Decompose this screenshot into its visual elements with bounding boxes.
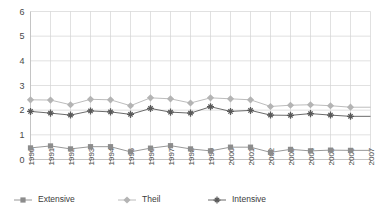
y-axis-tick-labels: 0123456 xyxy=(19,7,24,165)
square-marker xyxy=(20,197,25,202)
square-marker xyxy=(168,143,173,148)
plus-marker xyxy=(347,113,354,120)
square-marker xyxy=(28,145,33,150)
plus-marker xyxy=(267,112,274,119)
plus-marker xyxy=(107,108,114,115)
plus-marker xyxy=(147,105,154,112)
y-tick-label: 5 xyxy=(19,31,24,41)
series-line xyxy=(31,107,371,117)
square-marker xyxy=(308,148,313,153)
diamond-marker xyxy=(167,95,174,102)
chart-canvas: 0123456 19901991199219931994199519961997… xyxy=(0,0,378,213)
series-intensive xyxy=(27,103,371,120)
y-tick-label: 2 xyxy=(19,105,24,115)
x-tick-label: 2000 xyxy=(227,147,236,165)
square-marker xyxy=(248,145,253,150)
plus-marker xyxy=(67,112,74,119)
square-marker xyxy=(288,147,293,152)
diamond-marker xyxy=(67,101,74,108)
diamond-marker xyxy=(327,102,334,109)
x-tick-label: 2001 xyxy=(247,147,256,165)
square-marker xyxy=(268,150,273,155)
diamond-marker xyxy=(123,196,130,203)
square-marker xyxy=(108,144,113,149)
series-theil xyxy=(27,94,371,111)
plus-marker xyxy=(327,112,334,119)
diamond-marker xyxy=(127,102,134,109)
x-tick-label: 1994 xyxy=(107,147,116,165)
plus-marker xyxy=(307,110,314,117)
x-tick-label: 2007 xyxy=(367,147,376,165)
plus-marker xyxy=(167,109,174,116)
series-line xyxy=(31,146,371,153)
y-tick-label: 4 xyxy=(19,56,24,66)
chart-legend: ExtensiveTheilIntensive xyxy=(14,194,266,204)
y-tick-label: 1 xyxy=(19,130,24,140)
series-extensive xyxy=(28,143,371,155)
y-gridlines xyxy=(31,12,371,160)
diamond-marker xyxy=(47,96,54,103)
diamond-marker xyxy=(207,94,214,101)
legend-label: Theil xyxy=(142,194,161,204)
x-tickmarks xyxy=(31,160,371,164)
diamond-marker xyxy=(27,96,34,103)
square-marker xyxy=(148,146,153,151)
plus-marker xyxy=(247,107,254,114)
plus-marker xyxy=(287,112,294,119)
plus-marker xyxy=(27,108,34,115)
series-line xyxy=(31,98,371,107)
plus-marker xyxy=(127,111,134,118)
diamond-marker xyxy=(87,96,94,103)
x-tick-label: 1993 xyxy=(87,147,96,165)
legend-label: Extensive xyxy=(38,194,75,204)
y-tick-label: 0 xyxy=(19,155,24,165)
square-marker xyxy=(348,148,353,153)
square-marker xyxy=(128,149,133,154)
plus-marker xyxy=(187,110,194,117)
plus-marker xyxy=(207,103,214,110)
plus-marker xyxy=(213,196,220,203)
y-tick-label: 3 xyxy=(19,81,24,91)
legend-item-theil[interactable]: Theil xyxy=(118,194,161,204)
plus-marker xyxy=(47,110,54,117)
square-marker xyxy=(228,145,233,150)
line-chart: 0123456 19901991199219931994199519961997… xyxy=(0,0,378,213)
legend-label: Intensive xyxy=(232,194,266,204)
legend-item-extensive[interactable]: Extensive xyxy=(14,194,75,204)
diamond-marker xyxy=(247,96,254,103)
diamond-marker xyxy=(347,104,354,111)
x-tick-label: 1991 xyxy=(47,147,56,165)
square-marker xyxy=(88,144,93,149)
diamond-marker xyxy=(267,103,274,110)
square-marker xyxy=(68,146,73,151)
plus-marker xyxy=(227,108,234,115)
square-marker xyxy=(208,148,213,153)
diamond-marker xyxy=(187,99,194,106)
y-tick-label: 6 xyxy=(19,7,24,17)
square-marker xyxy=(48,143,53,148)
diamond-marker xyxy=(287,102,294,109)
x-tick-label: 1997 xyxy=(167,147,176,165)
legend-item-intensive[interactable]: Intensive xyxy=(208,194,266,204)
square-marker xyxy=(188,146,193,151)
diamond-marker xyxy=(227,95,234,102)
diamond-marker xyxy=(107,96,114,103)
diamond-marker xyxy=(147,94,154,101)
plus-marker xyxy=(87,107,94,114)
diamond-marker xyxy=(307,101,314,108)
data-series-layer xyxy=(27,94,371,155)
square-marker xyxy=(328,148,333,153)
